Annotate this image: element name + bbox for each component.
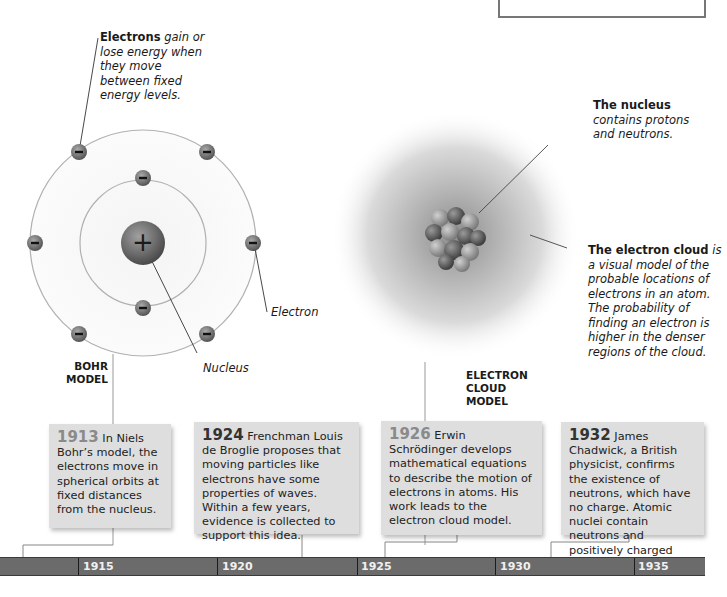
timeline-bar: 1915 1920 1925 1930 1935	[0, 557, 705, 576]
timeline-tick-label: 1915	[83, 560, 114, 573]
nucleus-caption: The nucleus contains protons and neutron…	[593, 98, 713, 142]
bohr-label-line2: MODEL	[64, 373, 108, 386]
timeline-tick	[634, 558, 635, 575]
event-year: 1926	[389, 425, 431, 443]
event-card-1913: 1913 In Niels Bohr’s model, the electron…	[49, 424, 171, 528]
nucleus-caption-title: The nucleus	[593, 98, 671, 112]
svg-text:+: +	[132, 227, 154, 257]
electrons-caption-title: Electrons	[100, 30, 161, 44]
electrons-caption: Electrons gain or lose energy when they …	[100, 30, 210, 103]
event-card-1932: 1932 James Chadwick, a British physicist…	[561, 422, 704, 535]
timeline-connectors	[23, 535, 629, 558]
event-text: Erwin Schrödinger develops mathematical …	[389, 429, 532, 527]
event-card-1926: 1926 Erwin Schrödinger develops mathemat…	[381, 421, 542, 535]
cloud-caption-text: is a visual model of the probable locati…	[588, 243, 721, 359]
electron-label: Electron	[271, 305, 318, 319]
electron-cloud-model-label: ELECTRON CLOUD MODEL	[466, 369, 528, 408]
event-year: 1913	[57, 428, 99, 446]
timeline-tick-label: 1935	[638, 560, 669, 573]
timeline-tick-label: 1925	[361, 560, 392, 573]
timeline-tick	[78, 558, 79, 575]
timeline-tick-label: 1920	[222, 560, 253, 573]
event-year: 1924	[202, 426, 244, 444]
electron-cloud-caption: The electron cloud is a visual model of …	[588, 243, 723, 359]
timeline-tick	[357, 558, 358, 575]
cloud-caption-title: The electron cloud	[588, 243, 709, 257]
event-year: 1932	[569, 426, 611, 444]
bohr-model-label: BOHR MODEL	[64, 360, 108, 386]
cloud-label-line1: ELECTRON	[466, 369, 528, 382]
event-text: Frenchman Louis de Broglie proposes that…	[202, 430, 343, 542]
nucleus-label: Nucleus	[203, 361, 249, 375]
timeline-tick	[217, 558, 218, 575]
cloud-label-line3: MODEL	[466, 395, 528, 408]
timeline-tick	[495, 558, 496, 575]
event-text: James Chadwick, a British physicist, con…	[569, 430, 690, 571]
cloud-label-line2: CLOUD	[466, 382, 528, 395]
nucleus-caption-text: contains protons and neutrons.	[593, 113, 689, 142]
timeline-tick-label: 1930	[500, 560, 531, 573]
event-card-1924: 1924 Frenchman Louis de Broglie proposes…	[194, 422, 359, 534]
bohr-label-line1: BOHR	[64, 360, 108, 373]
